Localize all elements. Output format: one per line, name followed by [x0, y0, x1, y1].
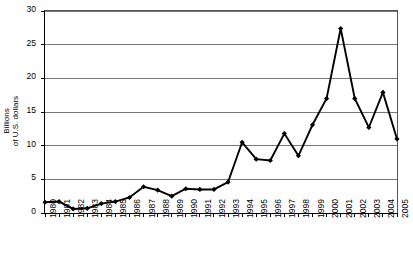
- x-tick-label: 1996: [273, 178, 283, 218]
- figure-caption: [3, 255, 303, 264]
- x-tick-mark: [59, 213, 60, 217]
- x-tick-label: 2003: [372, 178, 382, 218]
- x-tick-label: 2004: [386, 178, 396, 218]
- x-tick-mark: [199, 213, 200, 217]
- x-tick-mark: [73, 213, 74, 217]
- x-tick-label: 2005: [400, 178, 410, 218]
- x-tick-mark: [143, 213, 144, 217]
- y-axis-title-line1: Billions: [2, 108, 12, 133]
- x-tick-mark: [382, 213, 383, 217]
- data-point-marker: [380, 90, 385, 95]
- x-tick-mark: [157, 213, 158, 217]
- x-tick-label: 1994: [245, 178, 255, 218]
- x-tick-label: 1986: [132, 178, 142, 218]
- x-tick-label: 1983: [90, 178, 100, 218]
- y-tick-label: 5: [12, 173, 36, 182]
- data-point-marker: [338, 26, 343, 31]
- x-tick-mark: [185, 213, 186, 217]
- x-tick-mark: [228, 213, 229, 217]
- x-tick-label: 1988: [161, 178, 171, 218]
- y-tick-label: 15: [12, 106, 36, 115]
- x-tick-mark: [171, 213, 172, 217]
- x-tick-mark: [312, 213, 313, 217]
- x-tick-label: 2000: [330, 178, 340, 218]
- data-point-marker: [42, 200, 47, 205]
- x-tick-label: 1981: [62, 178, 72, 218]
- x-tick-mark: [87, 213, 88, 217]
- x-tick-mark: [213, 213, 214, 217]
- x-tick-label: 1993: [231, 178, 241, 218]
- x-tick-mark: [284, 213, 285, 217]
- x-tick-label: 1990: [189, 178, 199, 218]
- y-tick-label: 20: [12, 72, 36, 81]
- x-tick-label: 1999: [316, 178, 326, 218]
- x-tick-label: 1998: [301, 178, 311, 218]
- x-tick-mark: [129, 213, 130, 217]
- x-tick-mark: [115, 213, 116, 217]
- x-tick-mark: [354, 213, 355, 217]
- x-tick-label: 1985: [118, 178, 128, 218]
- x-tick-mark: [397, 213, 398, 217]
- x-tick-mark: [368, 213, 369, 217]
- chart-figure: Billions of U.S. dollars 051015202530 19…: [0, 0, 413, 264]
- x-tick-mark: [45, 213, 46, 217]
- x-tick-mark: [270, 213, 271, 217]
- x-tick-label: 2001: [344, 178, 354, 218]
- data-point-marker: [394, 136, 399, 141]
- x-tick-mark: [298, 213, 299, 217]
- x-tick-label: 1997: [287, 178, 297, 218]
- x-tick-label: 1989: [175, 178, 185, 218]
- x-tick-label: 2002: [358, 178, 368, 218]
- x-tick-label: 1987: [147, 178, 157, 218]
- x-tick-label: 1980: [48, 178, 58, 218]
- y-tick-label: 30: [12, 5, 36, 14]
- x-tick-mark: [340, 213, 341, 217]
- x-tick-mark: [101, 213, 102, 217]
- x-tick-label: 1991: [203, 178, 213, 218]
- x-tick-label: 1995: [259, 178, 269, 218]
- y-tick-label: 0: [12, 207, 36, 216]
- x-tick-mark: [242, 213, 243, 217]
- x-tick-label: 1992: [217, 178, 227, 218]
- x-tick-mark: [326, 213, 327, 217]
- x-tick-label: 1982: [76, 178, 86, 218]
- x-tick-label: 1984: [104, 178, 114, 218]
- y-tick-label: 25: [12, 39, 36, 48]
- x-tick-mark: [256, 213, 257, 217]
- y-tick-label: 10: [12, 140, 36, 149]
- y-axis-title-line2: of U.S. dollars: [11, 96, 21, 146]
